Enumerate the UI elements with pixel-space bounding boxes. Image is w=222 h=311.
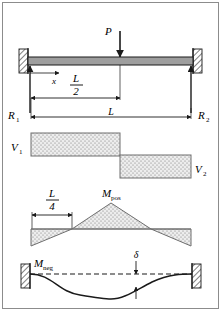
shear-right-subscript: 2 [203, 170, 207, 178]
deflection-right-support [192, 264, 201, 288]
load-label: P [104, 25, 112, 37]
left-fixed-support [19, 49, 28, 73]
reaction-left-subscript: 1 [16, 116, 20, 124]
reaction-left-label: R [7, 109, 15, 121]
moment-negative-subscript: neg [43, 264, 54, 272]
beam-diagram-figure: P x L 2 L R 1 R 2 V [0, 0, 222, 311]
deflection-delta-label: δ [134, 249, 139, 260]
half-span-numerator: L [72, 72, 79, 84]
right-fixed-support [193, 49, 202, 73]
reaction-right-label: R [197, 109, 205, 121]
span-label: L [107, 106, 114, 117]
shear-block-left [31, 133, 120, 156]
shear-left-subscript: 1 [19, 148, 23, 156]
beam-bar [28, 57, 193, 65]
quarter-numerator: L [48, 187, 55, 199]
x-label: x [51, 76, 56, 86]
reaction-right-subscript: 2 [206, 116, 210, 124]
deflection-left-support [21, 264, 30, 288]
shear-block-right [120, 155, 191, 178]
half-span-denominator: 2 [73, 85, 79, 97]
moment-positive-subscript: pos [111, 194, 121, 202]
quarter-denominator: 4 [49, 200, 55, 212]
diagram-canvas: P x L 2 L R 1 R 2 V [0, 0, 222, 311]
